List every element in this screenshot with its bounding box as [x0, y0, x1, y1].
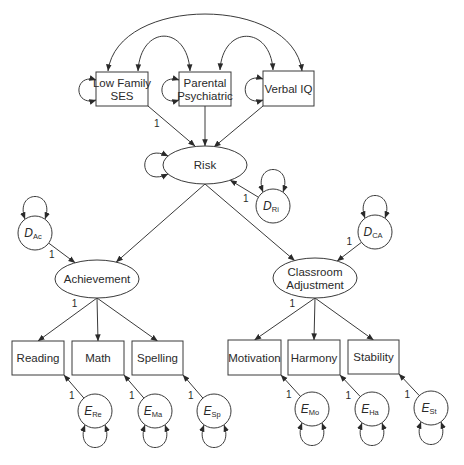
path-coefficient-label: 1 — [72, 298, 78, 309]
path-ach-to-spelling — [97, 298, 158, 341]
indicator-reading: Reading — [12, 341, 64, 375]
path-ca-to-harmony — [314, 298, 315, 340]
path-coefficient-label: 1 — [154, 118, 160, 129]
error-eha: EHa — [355, 392, 389, 426]
disturbance-dac: DAc — [18, 216, 52, 250]
disturbance-subscript: CA — [372, 231, 382, 240]
latent-label: Adjustment — [286, 279, 344, 291]
disturbance-letter: D — [363, 225, 372, 239]
path-coefficient-label: 1 — [49, 249, 55, 260]
covariance-psych-viq — [220, 36, 273, 70]
covariance-ses-viq — [108, 14, 302, 71]
path-coefficient-label: 1 — [188, 390, 194, 401]
error-subscript: St — [429, 407, 437, 416]
error-subscript: Re — [92, 410, 102, 419]
covariance-ses-psych — [138, 36, 190, 71]
latent-ach: Achievement — [55, 260, 139, 298]
observed-variable-label: Verbal IQ — [265, 83, 313, 95]
error-subscript: Ha — [369, 408, 379, 417]
observed-variable-psych: ParentalPsychiatric — [177, 72, 233, 106]
indicator-math: Math — [72, 341, 124, 375]
path-coefficient-label: 1 — [290, 298, 296, 309]
path-coefficient-label: 1 — [346, 390, 352, 401]
error-subscript: Ma — [152, 410, 163, 419]
observed-variable-label: Parental — [184, 77, 227, 89]
error-subscript: Mo — [309, 408, 319, 417]
observed-variable-label: Psychiatric — [177, 90, 233, 102]
observed-variable-ses: Low FamilySES — [93, 72, 151, 106]
error-est: ESt — [414, 391, 448, 425]
indicator-label: Reading — [17, 352, 60, 364]
path-ca-to-stability — [315, 298, 374, 340]
disturbance-letter: D — [24, 226, 33, 240]
path-coefficient-label: 1 — [286, 389, 292, 400]
observed-variable-label: Low Family — [93, 77, 151, 89]
path-ach-to-math — [97, 298, 98, 341]
path-coefficient-label: 1 — [347, 236, 353, 247]
latent-label: Classroom — [288, 266, 343, 278]
indicator-label: Harmony — [291, 352, 338, 364]
disturbance-letter: D — [263, 199, 272, 213]
indicator-label: Motivation — [228, 352, 280, 364]
disturbance-dca: DCA — [358, 215, 392, 249]
indicator-motivation: Motivation — [228, 340, 281, 375]
sem-diagram: Low FamilySESParentalPsychiatricVerbal I… — [0, 0, 464, 465]
latent-label: Achievement — [64, 273, 131, 285]
nodes-layer: Low FamilySESParentalPsychiatricVerbal I… — [12, 71, 448, 428]
error-esp: ESp — [197, 394, 231, 428]
path-coefficient-label: 1 — [243, 193, 249, 204]
indicator-harmony: Harmony — [288, 340, 340, 375]
error-emo: EMo — [295, 392, 329, 426]
disturbance-subscript: Ri — [272, 205, 279, 214]
disturbance-dri: DRi — [256, 189, 290, 223]
path-risk-to-ach — [116, 184, 205, 262]
latent-label: Risk — [194, 159, 217, 171]
observed-variable-viq: Verbal IQ — [263, 71, 314, 106]
path-viq-to-risk — [214, 106, 263, 147]
error-ema: EMa — [138, 394, 172, 428]
error-ere: ERe — [78, 394, 112, 428]
indicator-label: Spelling — [137, 352, 178, 364]
path-coefficient-label: 1 — [69, 390, 75, 401]
path-coefficient-label: 1 — [129, 390, 135, 401]
path-ach-to-reading — [38, 298, 97, 341]
indicator-stability: Stability — [348, 340, 399, 374]
path-coefficient-label: 1 — [405, 389, 411, 400]
indicator-label: Stability — [353, 351, 394, 363]
indicator-label: Math — [85, 352, 111, 364]
disturbance-subscript: Ac — [33, 232, 42, 241]
path-ca-to-motivation — [255, 298, 316, 340]
latent-risk: Risk — [163, 146, 247, 184]
latent-ca: ClassroomAdjustment — [273, 258, 357, 298]
observed-variable-label: SES — [110, 90, 133, 102]
indicator-spelling: Spelling — [132, 341, 183, 375]
variance-loop-viq — [245, 78, 263, 101]
error-subscript: Sp — [211, 410, 220, 419]
